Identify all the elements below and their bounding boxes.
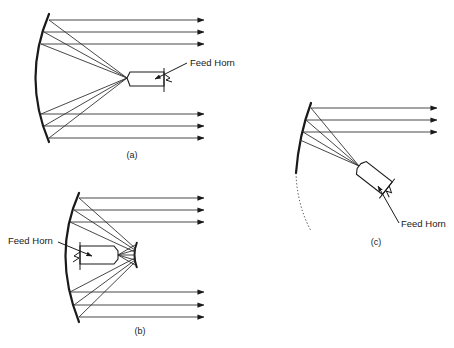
reflector-outline-dashed-c	[296, 173, 311, 231]
caption-a: (a)	[127, 150, 138, 160]
feed-horn-label-text-b: Feed Horn	[8, 235, 53, 246]
panel-c: Feed Horn (c)	[296, 103, 446, 247]
caption-b: (b)	[135, 326, 146, 336]
feed-horn-a	[127, 68, 172, 92]
caption-c: (c)	[371, 237, 382, 247]
feed-horn-b	[73, 242, 118, 270]
antenna-diagram-figure: Feed Horn (a)	[0, 0, 454, 348]
output-beams-a	[41, 20, 204, 138]
feed-rays-a	[41, 20, 127, 138]
output-beams-c	[303, 108, 437, 132]
feed-horn-label-text-c: Feed Horn	[401, 218, 446, 229]
feed-horn-label-c: Feed Horn	[378, 186, 446, 229]
feed-horn-c	[351, 157, 400, 203]
offset-reflector-c	[296, 103, 311, 173]
feed-rays-c	[300, 108, 359, 166]
panel-a: Feed Horn (a)	[36, 14, 235, 160]
panel-b: Feed Horn (b)	[8, 193, 204, 336]
feed-horn-label-text-a: Feed Horn	[190, 57, 235, 68]
